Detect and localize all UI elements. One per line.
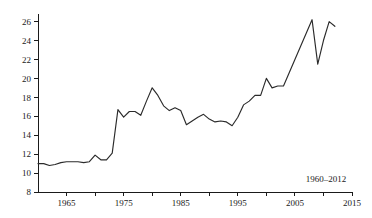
y-tick-label: 24 — [22, 36, 32, 46]
y-tick-label: 14 — [22, 130, 32, 140]
y-tick-label: 12 — [22, 149, 31, 159]
y-tick-label: 20 — [22, 74, 32, 84]
x-tick-label: 1985 — [172, 198, 191, 208]
y-tick-label: 16 — [22, 111, 32, 121]
y-axis-tick-labels: 8101214161820222426 — [22, 17, 32, 197]
data-series-line — [38, 20, 335, 166]
x-tick-label: 1995 — [229, 198, 248, 208]
x-axis-tick-marks — [67, 192, 352, 196]
chart-container: 8101214161820222426 19651975198519952005… — [0, 0, 372, 218]
y-tick-label: 8 — [27, 187, 32, 197]
y-tick-label: 22 — [22, 55, 31, 65]
y-tick-label: 26 — [22, 17, 32, 27]
y-axis-tick-marks — [34, 22, 38, 192]
x-axis-tick-labels: 196519751985199520052015 — [58, 198, 362, 208]
date-range-annotation: 1960–2012 — [306, 174, 347, 184]
x-tick-label: 2015 — [343, 198, 362, 208]
line-chart-plot: 8101214161820222426 19651975198519952005… — [0, 0, 372, 218]
y-tick-label: 10 — [22, 168, 32, 178]
x-tick-label: 1965 — [58, 198, 77, 208]
x-tick-label: 1975 — [115, 198, 134, 208]
x-tick-label: 2005 — [286, 198, 305, 208]
y-tick-label: 18 — [22, 93, 32, 103]
